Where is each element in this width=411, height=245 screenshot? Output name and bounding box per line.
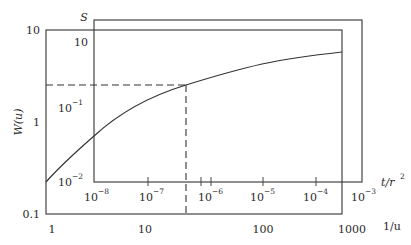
svg-text:−4: −4 (317, 187, 328, 196)
svg-text:10: 10 (303, 191, 317, 204)
svg-text:−1: −1 (72, 98, 83, 107)
svg-text:2: 2 (400, 172, 405, 181)
outer-x-axis-label: 1/u (383, 220, 401, 233)
svg-text:10: 10 (58, 176, 72, 189)
inner-x-tick-1e-8: 10 −8 (84, 187, 109, 204)
svg-text:10: 10 (84, 191, 98, 204)
inner-x-axis-label: t/r 2 (381, 172, 405, 189)
type-curve-W-u (46, 52, 342, 182)
outer-x-tick-1: 1 (49, 223, 56, 236)
svg-text:10: 10 (198, 191, 212, 204)
type-curve-chart: 10 1 0.1 W(u) 1 10 100 1000 1/u S 10 10 … (0, 0, 411, 245)
svg-text:−2: −2 (72, 172, 83, 181)
svg-text:10: 10 (58, 102, 72, 115)
inner-x-tick-1e-5: 10 −5 (250, 187, 275, 204)
outer-x-tick-10: 10 (138, 223, 152, 236)
inner-axes-frame (94, 20, 362, 182)
inner-y-axis-label: S (80, 11, 88, 24)
outer-y-tick-10: 10 (26, 24, 40, 37)
svg-text:−8: −8 (98, 187, 109, 196)
outer-x-tick-1000: 1000 (338, 223, 366, 236)
outer-x-tick-100: 100 (253, 223, 274, 236)
svg-text:−6: −6 (212, 187, 223, 196)
outer-y-tick-0.1: 0.1 (23, 208, 41, 221)
inner-y-tick-1e-1: 10 −1 (58, 98, 83, 115)
inner-x-tick-1e-7: 10 −7 (139, 187, 164, 204)
svg-text:−7: −7 (153, 187, 164, 196)
outer-y-tick-1: 1 (33, 116, 40, 129)
svg-text:−3: −3 (365, 187, 376, 196)
inner-y-tick-1e-2: 10 −2 (58, 172, 83, 189)
svg-text:10: 10 (351, 191, 365, 204)
outer-y-axis-label: W(u) (12, 109, 25, 136)
svg-text:10: 10 (139, 191, 153, 204)
inner-x-tick-1e-6: 10 −6 (198, 187, 223, 204)
svg-text:t/r: t/r (381, 176, 395, 189)
inner-x-tick-1e-4: 10 −4 (303, 187, 328, 204)
inner-x-tick-1e-3: 10 −3 (351, 187, 376, 204)
svg-text:10: 10 (250, 191, 264, 204)
inner-y-tick-10: 10 (74, 36, 88, 49)
svg-text:−5: −5 (264, 187, 275, 196)
